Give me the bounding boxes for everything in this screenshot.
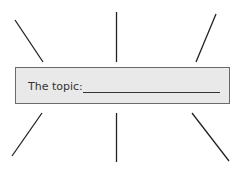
- topic-box: The topic:: [15, 67, 230, 104]
- spoke-bottom-left: [12, 113, 42, 156]
- spoke-top-right: [196, 14, 216, 62]
- spoke-top-left: [15, 20, 43, 62]
- spoke-bottom-right: [192, 113, 229, 161]
- topic-blank-line[interactable]: [83, 92, 220, 93]
- topic-label: The topic:: [28, 80, 83, 93]
